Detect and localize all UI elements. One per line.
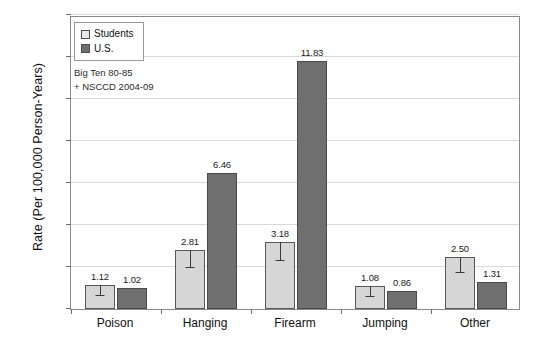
error-bar-cap: [186, 267, 195, 268]
error-bar-cap: [366, 296, 375, 297]
bar-group: 1.080.86: [341, 17, 431, 309]
bar-group: 2.501.31: [431, 17, 521, 309]
bar-value-label-students: 2.81: [181, 236, 199, 247]
error-bar-cap: [456, 272, 465, 273]
legend-swatch-students: [81, 30, 90, 39]
x-axis-tick-mark: [71, 309, 72, 314]
bar-us[interactable]: [297, 61, 327, 309]
bar-value-label-us: 11.83: [301, 47, 324, 58]
bar-value-label-students: 2.50: [451, 243, 469, 254]
bar-value-label-us: 6.46: [213, 159, 231, 170]
figure: Rate (Per 100,000 Person-Years) 02468101…: [0, 0, 541, 345]
y-axis-title: Rate (Per 100,000 Person-Years): [31, 27, 45, 287]
annotation-line-1: Big Ten 80-85: [74, 66, 153, 80]
bar-us[interactable]: [117, 288, 147, 309]
legend-item-students: Students: [81, 27, 133, 42]
y-axis-tick-mark: [66, 14, 71, 15]
bar-value-label-us: 1.31: [483, 268, 501, 279]
bar-group: 3.1811.83: [251, 17, 341, 309]
error-bar-students: [460, 257, 461, 274]
gridline: [71, 14, 519, 15]
error-bar-students: [280, 242, 281, 260]
error-bar-cap: [276, 260, 285, 261]
bar-value-label-students: 1.12: [91, 271, 109, 282]
error-bar-students: [190, 250, 191, 268]
error-bar-cap: [96, 295, 105, 296]
bar-value-label-students: 1.08: [361, 272, 379, 283]
x-axis-category-label: Poison: [97, 316, 134, 330]
bar-us[interactable]: [387, 291, 417, 309]
x-axis-category-label: Firearm: [274, 316, 315, 330]
legend-item-us: U.S.: [81, 42, 133, 57]
legend-swatch-us: [81, 44, 90, 53]
legend-label-students: Students: [94, 27, 133, 42]
legend: Students U.S.: [74, 22, 144, 61]
bar-value-label-students: 3.18: [271, 228, 289, 239]
bar-us[interactable]: [207, 173, 237, 309]
x-axis-tick-mark: [251, 309, 252, 314]
annotation-note: Big Ten 80-85 + NSCCD 2004-09: [74, 66, 153, 95]
x-axis-tick-mark: [161, 309, 162, 314]
x-axis-tick-mark: [431, 309, 432, 314]
x-axis-tick-mark: [341, 309, 342, 314]
bar-value-label-us: 1.02: [123, 274, 141, 285]
legend-label-us: U.S.: [94, 42, 113, 57]
bar-us[interactable]: [477, 282, 507, 310]
annotation-line-2: + NSCCD 2004-09: [74, 80, 153, 94]
x-axis-category-label: Hanging: [183, 316, 228, 330]
bar-value-label-us: 0.86: [393, 277, 411, 288]
x-axis-category-label: Other: [460, 316, 490, 330]
x-axis-category-label: Jumping: [362, 316, 407, 330]
bar-group: 2.816.46: [161, 17, 251, 309]
